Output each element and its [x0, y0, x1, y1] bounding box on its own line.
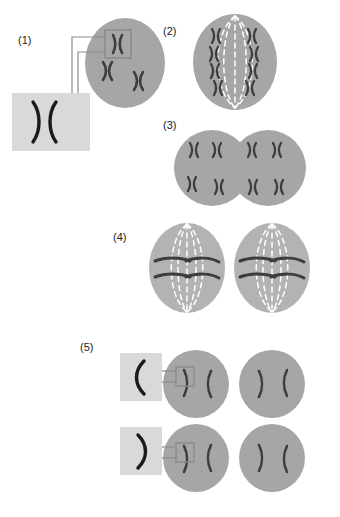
diagram-svg: [0, 0, 340, 517]
stage-1-cell: [85, 18, 165, 108]
stage-5-cell-upper-right: [239, 350, 305, 418]
stage-5-inset-panel-upper: [120, 353, 162, 401]
stage-5-cell-lower-right: [239, 424, 305, 492]
stage-5-group: [120, 350, 305, 492]
stage-5-inset-panel-lower: [120, 427, 162, 475]
stage-3-group: [174, 130, 306, 206]
diagram-canvas: (1) (2) (3) (4) (5): [0, 0, 340, 517]
stage-3-cell-right: [230, 130, 306, 206]
stage-1-group: [12, 18, 165, 151]
stage-5-cell-upper-left: [163, 350, 229, 418]
stage-4-group: [149, 223, 310, 313]
stage-2-group: [193, 14, 277, 110]
